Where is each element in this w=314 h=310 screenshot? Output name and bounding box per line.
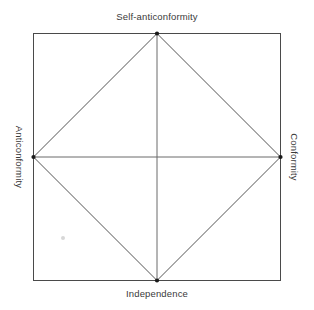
diagram-canvas: Self-anticonformity Independence Anticon… bbox=[0, 0, 314, 310]
vertex-marker-left bbox=[31, 155, 35, 159]
typology-diagram-figure bbox=[0, 0, 314, 310]
scan-artifact-speck bbox=[61, 236, 65, 240]
vertex-marker-bottom bbox=[155, 278, 159, 282]
label-conformity: Conformity bbox=[288, 102, 300, 212]
label-independence: Independence bbox=[0, 288, 314, 300]
vertex-marker-top bbox=[155, 31, 159, 35]
label-self-anticonformity: Self-anticonformity bbox=[0, 11, 314, 23]
label-anticonformity: Anticonformity bbox=[13, 102, 25, 212]
vertex-marker-right bbox=[278, 155, 282, 159]
